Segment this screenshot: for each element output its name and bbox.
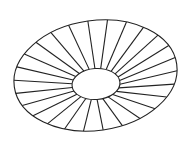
spoke-line <box>17 67 73 80</box>
spoke-line <box>101 20 108 69</box>
spoke-line <box>97 99 103 130</box>
spoke-line <box>88 21 95 69</box>
spoke-line <box>113 94 155 108</box>
ring-spokes-diagram <box>0 0 191 148</box>
spoke-line <box>118 46 169 77</box>
diagram-canvas: Tilted elliptical ring with radial spoke… <box>0 0 191 148</box>
spoke-line <box>22 91 74 105</box>
spoke-line <box>119 84 174 88</box>
spoke-line <box>14 80 72 84</box>
spoke-line <box>106 22 126 70</box>
spoke-line <box>120 58 176 81</box>
spoke-line <box>120 71 177 84</box>
spoke-line <box>69 25 90 69</box>
spoke-line <box>84 99 92 131</box>
inner-ellipse <box>71 67 121 101</box>
spoke-line <box>103 99 123 126</box>
spoke-line <box>108 97 140 119</box>
spoke-line <box>116 91 166 97</box>
spoke-line <box>115 35 158 74</box>
spoke-line <box>16 88 73 94</box>
spoke-line <box>65 98 86 129</box>
